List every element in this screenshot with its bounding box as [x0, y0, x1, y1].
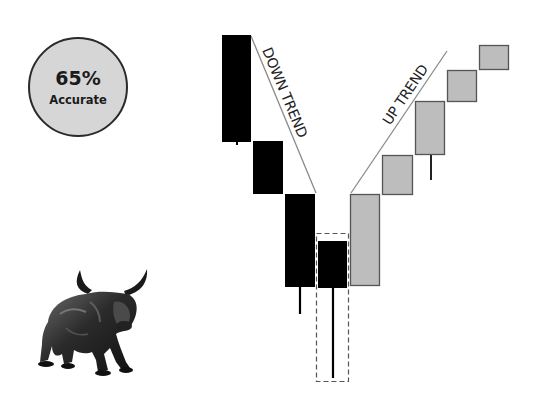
bull-icon: [30, 262, 155, 382]
bullish-candle-2: [383, 156, 413, 195]
bearish-candle-2: [253, 141, 283, 194]
bullish-candle-3: [416, 102, 445, 181]
bullish-candle-5: [480, 46, 509, 70]
bearish-candle-1: [222, 35, 251, 145]
bullish-candle-1: [351, 195, 380, 286]
down-trend-label: DOWN TREND: [259, 45, 311, 140]
bullish-candle-4: [448, 71, 477, 102]
reversal-candle: [318, 241, 347, 378]
bearish-candle-3: [285, 194, 315, 314]
